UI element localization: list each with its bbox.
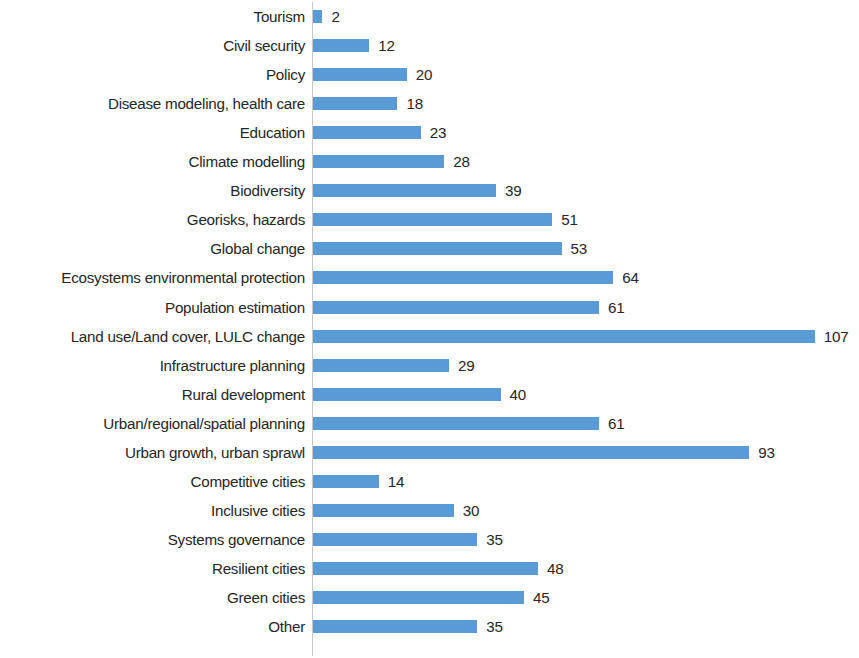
category-label: Land use/Land cover, LULC change — [5, 328, 305, 345]
bar-and-value: 29 — [313, 359, 475, 372]
bar-and-value: 40 — [313, 388, 526, 401]
bar-row: Policy20 — [0, 60, 859, 89]
bar-value-label: 64 — [622, 269, 639, 286]
bar — [313, 475, 379, 488]
bar — [313, 126, 421, 139]
bar — [313, 330, 815, 343]
bar-row: Global change53 — [0, 234, 859, 263]
bar-row: Urban/regional/spatial planning61 — [0, 409, 859, 438]
bar-row: Georisks, hazards51 — [0, 205, 859, 234]
bar-value-label: 39 — [505, 182, 522, 199]
bar — [313, 184, 496, 197]
bar-row: Competitive cities14 — [0, 467, 859, 496]
bar-and-value: 20 — [313, 68, 432, 81]
bar-rows-container: Tourism2Civil security12Policy20Disease … — [0, 0, 859, 658]
bar — [313, 359, 449, 372]
bar — [313, 591, 524, 604]
bar-row: Other35 — [0, 612, 859, 641]
bar-and-value: 93 — [313, 446, 775, 459]
bar-row: Ecosystems environmental protection64 — [0, 263, 859, 292]
bar-and-value: 30 — [313, 504, 479, 517]
bar-value-label: 29 — [458, 357, 475, 374]
category-label: Civil security — [5, 37, 305, 54]
bar-row: Population estimation61 — [0, 293, 859, 322]
bar-and-value: 64 — [313, 271, 639, 284]
category-label: Georisks, hazards — [5, 211, 305, 228]
bar — [313, 562, 538, 575]
category-label: Ecosystems environmental protection — [5, 269, 305, 286]
bar-value-label: 61 — [608, 415, 625, 432]
bar-value-label: 14 — [388, 473, 405, 490]
bar-row: Resilient cities48 — [0, 554, 859, 583]
bar — [313, 446, 749, 459]
bar-value-label: 53 — [571, 240, 588, 257]
bar-and-value: 14 — [313, 475, 404, 488]
bar-and-value: 45 — [313, 591, 550, 604]
bar — [313, 213, 552, 226]
bar-and-value: 28 — [313, 155, 470, 168]
bar-value-label: 93 — [758, 444, 775, 461]
bar-value-label: 28 — [453, 153, 470, 170]
bar — [313, 301, 599, 314]
bar-value-label: 45 — [533, 589, 550, 606]
bar — [313, 68, 407, 81]
category-label: Inclusive cities — [5, 502, 305, 519]
bar-row: Tourism2 — [0, 2, 859, 31]
category-label: Urban growth, urban sprawl — [5, 444, 305, 461]
bar-row: Climate modelling28 — [0, 147, 859, 176]
bar-chart: Tourism2Civil security12Policy20Disease … — [0, 0, 859, 658]
bar — [313, 620, 477, 633]
bar-value-label: 35 — [486, 531, 503, 548]
bar — [313, 533, 477, 546]
bar — [313, 97, 397, 110]
category-label: Green cities — [5, 589, 305, 606]
bar-and-value: 35 — [313, 533, 503, 546]
bar-row: Biodiversity39 — [0, 176, 859, 205]
category-label: Policy — [5, 66, 305, 83]
category-label: Population estimation — [5, 299, 305, 316]
bar — [313, 39, 369, 52]
category-label: Systems governance — [5, 531, 305, 548]
bar-value-label: 107 — [824, 328, 849, 345]
bar-value-label: 51 — [561, 211, 578, 228]
bar-value-label: 2 — [331, 8, 339, 25]
bar — [313, 271, 613, 284]
bar-and-value: 48 — [313, 562, 564, 575]
bar-row: Urban growth, urban sprawl93 — [0, 438, 859, 467]
bar-row: Disease modeling, health care18 — [0, 89, 859, 118]
category-label: Resilient cities — [5, 560, 305, 577]
bar-and-value: 53 — [313, 242, 587, 255]
bar-value-label: 40 — [510, 386, 527, 403]
category-label: Global change — [5, 240, 305, 257]
category-label: Infrastructure planning — [5, 357, 305, 374]
bar-row: Inclusive cities30 — [0, 496, 859, 525]
bar-row: Education23 — [0, 118, 859, 147]
bar — [313, 388, 501, 401]
bar-and-value: 12 — [313, 39, 395, 52]
bar-and-value: 35 — [313, 620, 503, 633]
bar-row: Rural development40 — [0, 380, 859, 409]
plot-area: Tourism2Civil security12Policy20Disease … — [0, 0, 859, 658]
category-label: Biodiversity — [5, 182, 305, 199]
bar — [313, 417, 599, 430]
bar-and-value: 2 — [313, 10, 340, 23]
bar-and-value: 61 — [313, 301, 625, 314]
bar-and-value: 61 — [313, 417, 625, 430]
bar-value-label: 30 — [463, 502, 480, 519]
category-label: Tourism — [5, 8, 305, 25]
category-label: Climate modelling — [5, 153, 305, 170]
bar-and-value: 107 — [313, 330, 849, 343]
bar-value-label: 48 — [547, 560, 564, 577]
category-label: Rural development — [5, 386, 305, 403]
bar — [313, 155, 444, 168]
bar-row: Systems governance35 — [0, 525, 859, 554]
bar-and-value: 23 — [313, 126, 446, 139]
bar-value-label: 61 — [608, 299, 625, 316]
bar-value-label: 35 — [486, 618, 503, 635]
category-label: Urban/regional/spatial planning — [5, 415, 305, 432]
bar-row: Infrastructure planning29 — [0, 351, 859, 380]
category-label: Disease modeling, health care — [5, 95, 305, 112]
bar-value-label: 23 — [430, 124, 447, 141]
bar — [313, 504, 454, 517]
category-label: Education — [5, 124, 305, 141]
